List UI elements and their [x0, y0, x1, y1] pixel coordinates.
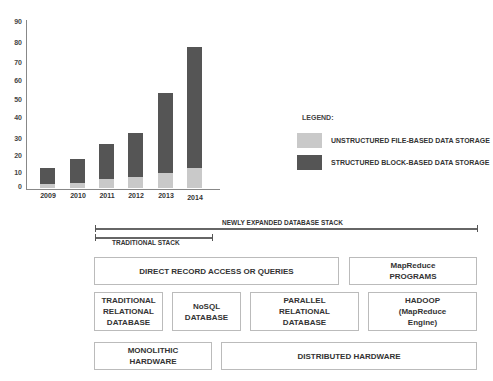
bar-segment-unstructured [187, 168, 202, 188]
bracket-end [95, 225, 96, 232]
box-hadoop: HADOOP (MapReduce Engine) [368, 292, 477, 331]
y-tick: 80 [0, 39, 22, 47]
bracket-end [212, 234, 213, 241]
y-tick: 40 [0, 114, 22, 122]
bar-2012 [128, 133, 143, 188]
x-tick: 2009 [33, 192, 63, 199]
box-monolithic-hardware: MONOLITHIC HARDWARE [94, 342, 212, 370]
traditional-label: TRADITIONAL STACK [112, 239, 180, 246]
y-tick: 30 [0, 135, 22, 143]
bar-2009 [40, 168, 55, 188]
bar-2011 [99, 144, 114, 188]
y-tick: 70 [0, 59, 22, 67]
legend-swatch-structured [297, 155, 322, 170]
bracket-line [95, 228, 477, 230]
bar-segment-structured [187, 47, 202, 168]
bar-2013 [158, 93, 173, 188]
bar-2014 [187, 47, 202, 188]
bar-2010 [70, 159, 85, 188]
newly-expanded-label: NEWLY EXPANDED DATABASE STACK [222, 219, 343, 226]
x-tick: 2014 [180, 194, 210, 201]
y-tick: 60 [0, 77, 22, 85]
legend-label-structured: STRUCTURED BLOCK-BASED DATA STORAGE [331, 159, 489, 166]
bar-segment-structured [158, 93, 173, 174]
bar-segment-unstructured [99, 179, 114, 188]
x-tick: 2011 [92, 192, 122, 199]
bar-segment-unstructured [70, 183, 85, 188]
bar-segment-unstructured [158, 173, 173, 188]
bar-segment-structured [128, 133, 143, 177]
y-tick: 50 [0, 96, 22, 104]
x-tick: 2013 [151, 192, 181, 199]
y-tick: 90 [0, 18, 22, 26]
legend-title: LEGEND: [302, 114, 334, 121]
legend-label-unstructured: UNSTRUCTURED FILE-BASED DATA STORAGE [331, 137, 490, 144]
legend-swatch-unstructured [297, 133, 322, 148]
box-nosql-db: NoSQL DATABASE [172, 292, 241, 331]
y-tick: 10 [0, 169, 22, 177]
box-traditional-relational-db: TRADITIONAL RELATIONAL DATABASE [94, 292, 163, 331]
box-distributed-hardware: DISTRIBUTED HARDWARE [221, 342, 477, 370]
bar-segment-structured [99, 144, 114, 179]
bar-segment-structured [70, 159, 85, 183]
box-mapreduce-programs: MapReduce PROGRAMS [349, 257, 477, 285]
x-tick: 2012 [121, 192, 151, 199]
box-parallel-relational-db: PARALLEL RELATIONAL DATABASE [250, 292, 359, 331]
bracket-end [95, 234, 96, 241]
bracket-end [477, 225, 478, 232]
box-direct-record-access: DIRECT RECORD ACCESS OR QUERIES [94, 257, 339, 285]
y-axis-line [26, 20, 27, 190]
bar-segment-unstructured [40, 184, 55, 188]
bar-segment-structured [40, 168, 55, 184]
x-tick: 2010 [63, 192, 93, 199]
bar-segment-unstructured [128, 177, 143, 188]
y-tick: 0 [0, 183, 22, 191]
y-tick: 20 [0, 152, 22, 160]
x-axis-line [26, 189, 220, 190]
